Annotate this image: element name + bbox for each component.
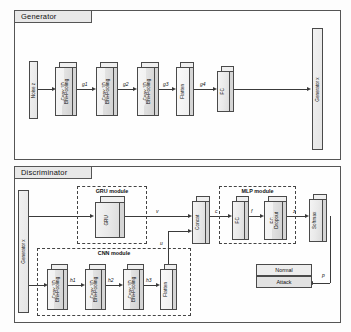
output-normal-label: Normal: [275, 267, 292, 273]
discriminator-block-conv3-sublabel: BN+Pooling: [133, 277, 138, 302]
discriminator-block-conv2-sublabel: BN+Pooling: [95, 277, 100, 302]
discriminator-block-conv3: Conv 1D BN+Pooling: [123, 264, 144, 310]
edge-h2: [106, 285, 120, 286]
generator-block-fc-label: FC: [221, 88, 226, 94]
mlp-block-fc1: FC: [232, 196, 249, 240]
discriminator-input-bar: Generator x: [18, 190, 29, 313]
edge-z: [287, 216, 306, 217]
mlp-block-fc2-sublabel: Dropout: [275, 212, 280, 229]
generator-block-conv3-sublabel: BN+Pooling: [148, 79, 153, 104]
output-attack-label: Attack: [277, 279, 292, 285]
block-back-face: BN+Pooling: [131, 269, 140, 310]
generator-input-noise: Noise z: [29, 61, 38, 119]
block-back-face: BN+Pooling: [64, 67, 73, 116]
gru-block: GRU: [95, 196, 125, 238]
discriminator-panel-title: Discriminator: [14, 166, 92, 179]
discriminator-block-conv1-sublabel: BN+Pooling: [57, 277, 62, 302]
mlp-block-fc2: FC Dropout: [264, 196, 287, 240]
edge-label-g1: g1: [82, 81, 88, 87]
arrowhead-fc-to-generated: [307, 87, 311, 91]
block-side-face: [140, 269, 144, 310]
edge-g3: [159, 89, 173, 90]
edge-u-horizontal: [168, 231, 189, 232]
generator-input-label: Noise z: [31, 82, 36, 97]
gru-block-label: GRU: [105, 215, 110, 226]
generator-block-conv1-sublabel: BN+Pooling: [66, 79, 71, 104]
block-side-face: [120, 202, 125, 238]
edge-label-h3: h3: [146, 277, 152, 283]
edge-h1: [68, 285, 82, 286]
block-side-face: [230, 71, 234, 112]
block-side-face: [190, 67, 194, 116]
mlp-block-fc1-label: FC: [236, 217, 241, 223]
block-back-face: BN+Pooling: [146, 67, 155, 116]
block-front-face: FC: [232, 201, 245, 240]
edge-p-horizontal: [313, 283, 330, 284]
concat-block: Concat: [192, 196, 210, 244]
block-side-face: [73, 67, 77, 116]
discriminator-input-label: Generator x: [21, 239, 26, 263]
mlp-module-title: MLP module: [220, 188, 295, 194]
edge-label-p: p: [322, 272, 325, 278]
edge-noise-to-conv1: [38, 89, 53, 90]
concat-block-label: Concat: [197, 215, 202, 230]
edge-label-c: c: [215, 208, 218, 214]
edge-label-u: u: [160, 240, 163, 246]
block-side-face: [283, 201, 287, 240]
block-front-face: Concat: [192, 201, 206, 244]
edge-g2: [118, 89, 134, 90]
block-back-face: Dropout: [273, 201, 283, 240]
block-front-face: FC: [217, 71, 230, 112]
discriminator-block-conv2: Conv 1D BN+Pooling: [85, 264, 106, 310]
edge-p-vertical: [330, 216, 331, 283]
block-side-face: [114, 67, 118, 116]
generator-block-flatten-label: Flatten: [181, 84, 186, 99]
generator-block-conv2: Conv 1D BN+Pooling: [96, 62, 118, 116]
edge-label-h1: h1: [70, 277, 76, 283]
diagram-canvas: Generator Noise z Conv 1D BN+Pooling g1 …: [0, 0, 351, 332]
generator-block-conv2-sublabel: BN+Pooling: [107, 79, 112, 104]
block-back-face: BN+Pooling: [93, 269, 102, 310]
discriminator-block-flatten: Flatten: [160, 264, 177, 310]
output-normal: Normal: [256, 264, 312, 276]
edge-label-g3: g3: [163, 81, 169, 87]
softmax-block: Softmax: [309, 194, 327, 242]
block-side-face: [245, 201, 249, 240]
generator-block-fc: FC: [217, 66, 234, 112]
output-attack: Attack: [256, 276, 312, 288]
edge-label-g2: g2: [123, 81, 129, 87]
edge-fc-to-generated: [234, 89, 308, 90]
edge-label-f: f: [251, 208, 252, 214]
softmax-block-label: Softmax: [314, 212, 319, 230]
generator-output-label: Generator x: [315, 77, 320, 101]
edge-g4: [194, 89, 214, 90]
block-back-face: BN+Pooling: [105, 67, 114, 116]
edge-u-vertical: [168, 231, 169, 264]
block-back-face: BN+Pooling: [55, 269, 64, 310]
edge-label-v: v: [156, 208, 159, 214]
block-side-face: [64, 269, 68, 310]
generator-block-flatten: Flatten: [176, 62, 194, 116]
block-front-face: Flatten: [176, 67, 190, 116]
edge-v: [125, 216, 189, 217]
edge-label-g4: g4: [200, 81, 206, 87]
generator-block-conv1: Conv 1D BN+Pooling: [55, 62, 77, 116]
block-side-face: [323, 199, 327, 242]
generator-output-bar: Generator x: [312, 28, 323, 150]
block-side-face: [155, 67, 159, 116]
generator-panel-title: Generator: [14, 10, 92, 23]
block-front-face: Flatten: [160, 269, 173, 310]
generator-block-conv3: Conv 1D BN+Pooling: [137, 62, 159, 116]
block-front-face: GRU: [95, 202, 120, 238]
block-side-face: [206, 201, 210, 244]
edge-label-z: z: [293, 208, 296, 214]
gru-module-title: GRU module: [78, 188, 146, 194]
block-side-face: [102, 269, 106, 310]
discriminator-block-conv1: Conv 1D BN+Pooling: [47, 264, 68, 310]
discriminator-block-flatten-label: Flatten: [164, 282, 169, 297]
edge-g1: [77, 89, 93, 90]
block-side-face: [173, 269, 177, 310]
block-front-face: Softmax: [309, 199, 323, 242]
edge-label-h2: h2: [108, 277, 114, 283]
